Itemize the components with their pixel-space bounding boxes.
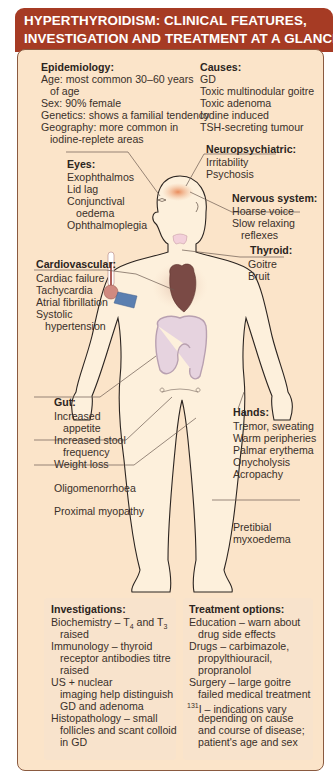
gut-item: Increased <box>54 410 101 422</box>
epidemiology-line: iodine-replete areas <box>41 133 144 145</box>
pretibial-label-2: myxoedema <box>233 533 291 545</box>
hands-item: Acropachy <box>233 468 283 480</box>
treatment-line: propranolol <box>189 664 251 676</box>
investigations-line: follicles and scant colloid <box>51 724 177 736</box>
cause-item: GD <box>200 73 216 85</box>
proximal-myopathy-label: Proximal myopathy <box>54 505 144 517</box>
investigations-line: raised <box>51 628 89 640</box>
cardiovascular-item: Systolic <box>36 308 73 320</box>
treatment-line: drug side effects <box>189 628 276 640</box>
cause-item: Toxic multinodular goitre <box>200 85 314 97</box>
thyroid-heading: Thyroid: <box>250 244 292 256</box>
investigations-line: GD and adenoma <box>51 700 144 712</box>
cardiovascular-item: Tachycardia <box>36 284 93 296</box>
cause-item: TSH-secreting tumour <box>200 121 304 133</box>
investigations-line: in GD <box>51 736 87 748</box>
epidemiology-line: Age: most common 30–60 years <box>41 73 194 85</box>
neuropsychiatric-item: Psychosis <box>206 168 254 180</box>
treatment-line: Drugs – carbimazole, <box>189 640 289 652</box>
hands-item: Tremor, sweating <box>233 420 314 432</box>
hands-item: Palmar erythema <box>233 444 314 456</box>
treatment-line: propylthiouracil, <box>189 652 272 664</box>
thyroid-item: Goitre <box>248 258 277 270</box>
cardiovascular-item: Atrial fibrillation <box>36 296 108 308</box>
epidemiology-line: Geography: more common in <box>41 121 178 133</box>
treatment-line: depending on cause <box>189 712 293 724</box>
epidemiology-line: Genetics: shows a familial tendency <box>41 109 209 121</box>
investigations-line: raised <box>51 664 89 676</box>
hands-item: Onycholysis <box>233 456 290 468</box>
treatment-line: Education – warn about <box>189 616 300 628</box>
thyroid-gland <box>173 234 187 244</box>
eyes-item: Ophthalmoplegia <box>67 219 147 231</box>
gut-heading: Gut: <box>54 396 76 408</box>
neuropsychiatric-heading: Neuropsychiatric: <box>206 143 296 155</box>
epidemiology-line: Sex: 90% female <box>41 97 121 109</box>
eyes-item: Exophthalmos <box>67 171 134 183</box>
nervous-system-item: reflexes <box>232 229 278 241</box>
gut-item: appetite <box>54 422 101 434</box>
hands-heading: Hands: <box>233 406 269 418</box>
epidemiology-heading: Epidemiology: <box>41 61 114 73</box>
hands-item: Warm peripheries <box>233 432 316 444</box>
eyes-heading: Eyes: <box>67 158 95 170</box>
gut-item: Weight loss <box>54 458 109 470</box>
cardiovascular-item: hypertension <box>36 320 106 332</box>
cause-item: Toxic adenoma <box>200 97 271 109</box>
nervous-system-heading: Nervous system: <box>232 192 317 204</box>
investigations-line: Histopathology – small <box>51 712 158 724</box>
thyroid-item: Bruit <box>248 270 270 282</box>
nervous-system-item: Hoarse voice <box>232 205 294 217</box>
gut-item: frequency <box>54 446 110 458</box>
investigations-line: Immunology – thyroid <box>51 640 152 652</box>
epidemiology-line: of age <box>41 85 79 97</box>
neuropsychiatric-item: Irritability <box>206 156 248 168</box>
pretibial-label-1: Pretibial <box>233 521 271 533</box>
treatment-line: patient's age and sex <box>189 736 298 748</box>
treatment-line: failed medical treatment <box>189 688 310 700</box>
nervous-system-item: Slow relaxing <box>232 217 295 229</box>
treatment-line: Surgery – large goitre <box>189 676 291 688</box>
investigations-heading: Investigations: <box>51 603 126 615</box>
cause-item: Iodine induced <box>200 109 269 121</box>
causes-heading: Causes: <box>200 61 241 73</box>
investigations-line: imaging help distinguish <box>51 688 173 700</box>
treatment-heading: Treatment options: <box>189 603 284 615</box>
investigations-line: US + nuclear <box>51 676 113 688</box>
treatment-line: and course of disease; <box>189 724 305 736</box>
brain-hotspot <box>162 183 194 201</box>
oligomenorrhoea-label: Oligomenorrhoea <box>54 482 136 494</box>
cardiovascular-item: Cardiac failure <box>36 272 104 284</box>
eyes-item: Conjunctival <box>67 195 125 207</box>
investigations-line: receptor antibodies titre <box>51 652 171 664</box>
cardiovascular-heading: Cardiovascular: <box>36 258 116 270</box>
eyes-item: oedema <box>67 207 114 219</box>
eyes-item: Lid lag <box>67 183 98 195</box>
gut-item: Increased stool <box>54 434 126 446</box>
